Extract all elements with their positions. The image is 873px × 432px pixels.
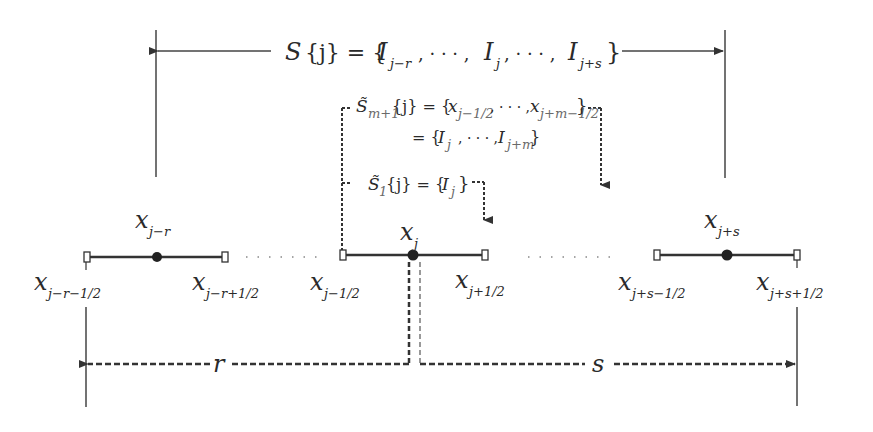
cell-interface-marker <box>84 252 90 262</box>
svg-text:I: I <box>377 38 388 66</box>
cell-center-dot <box>722 250 733 261</box>
svg-text:}: } <box>606 38 621 66</box>
svg-text:j−1/2: j−1/2 <box>455 106 494 121</box>
s-label: s <box>592 350 604 378</box>
svg-text:{j} = {: {j} = { <box>305 40 386 65</box>
cell-interface-marker <box>340 250 346 260</box>
svg-text:j−r: j−r <box>146 224 171 239</box>
svg-text:, · · · ,: , · · · , <box>490 99 530 115</box>
cell-left <box>84 252 228 270</box>
cell-center-dot <box>408 250 419 261</box>
svg-text:, · · · ,: , · · · , <box>418 43 470 64</box>
svg-text:j+1/2: j+1/2 <box>466 284 505 299</box>
svg-text:{j} = {: {j} = { <box>392 97 451 116</box>
svg-text:I: I <box>441 174 449 194</box>
svg-text:x: x <box>704 206 718 234</box>
cell-interface-marker <box>222 252 228 262</box>
svg-text:j+s: j+s <box>577 56 602 71</box>
svg-text:, · · · ,: , · · · , <box>504 43 556 64</box>
small-stencil-label: S̃ 1 {j} = { I j } <box>368 173 469 199</box>
svg-text:x: x <box>192 268 206 296</box>
svg-text:}: } <box>458 173 469 194</box>
svg-text:x: x <box>34 268 48 296</box>
svg-text:j+m−1/2: j+m−1/2 <box>537 106 599 121</box>
svg-text:j: j <box>448 184 455 199</box>
top-stencil-label: S {j} = { I j−r , · · · , I j , · · · , … <box>285 38 621 71</box>
cell-labels: x j−r x j−r−1/2 x j−r+1/2 x j x j−1/2 x … <box>34 206 823 301</box>
svg-text:j−r+1/2: j−r+1/2 <box>203 286 259 301</box>
svg-text:j+s: j+s <box>715 224 740 239</box>
svg-text:j+s−1/2: j+s−1/2 <box>629 286 685 301</box>
stencil-diagram: S {j} = { I j−r , · · · , I j , · · · , … <box>0 0 873 432</box>
svg-text:j−r−1/2: j−r−1/2 <box>45 286 101 301</box>
svg-text:x: x <box>618 268 632 296</box>
svg-text:{j} = {: {j} = { <box>386 175 445 194</box>
svg-text:I: I <box>437 127 445 147</box>
r-label: r <box>213 350 226 378</box>
svg-text:j−1/2: j−1/2 <box>321 286 360 301</box>
svg-text:x: x <box>310 268 324 296</box>
svg-text:S̃: S̃ <box>368 174 380 194</box>
cell-center <box>340 250 488 261</box>
cell-center-dot <box>152 252 162 262</box>
cell-interface-marker <box>654 250 660 260</box>
svg-text:= {: = { <box>412 128 441 147</box>
svg-text:x: x <box>455 266 469 294</box>
svg-text:, · · · ,: , · · · , <box>458 130 498 146</box>
svg-text:I: I <box>497 127 505 147</box>
svg-text:}: } <box>576 95 587 116</box>
svg-text:j+s+1/2: j+s+1/2 <box>767 286 823 301</box>
svg-text:x: x <box>400 218 414 246</box>
middle-stencil-label: S̃ m+1 {j} = { x j−1/2 , · · · , x j+m−1… <box>356 95 599 152</box>
svg-text:j: j <box>493 56 500 71</box>
svg-text:x: x <box>756 268 770 296</box>
svg-text:x: x <box>135 206 149 234</box>
svg-text:I: I <box>567 38 578 66</box>
cell-interface-marker <box>482 250 488 260</box>
svg-text:x: x <box>448 96 458 116</box>
svg-text:j: j <box>444 137 451 152</box>
cell-right <box>654 250 800 269</box>
svg-text:x: x <box>530 96 540 116</box>
svg-text:I: I <box>483 38 494 66</box>
svg-text:}: } <box>530 128 540 147</box>
svg-text:S: S <box>285 38 301 66</box>
svg-text:S̃: S̃ <box>356 96 368 116</box>
cell-interface-marker <box>794 250 800 260</box>
svg-text:j−r: j−r <box>387 56 412 71</box>
